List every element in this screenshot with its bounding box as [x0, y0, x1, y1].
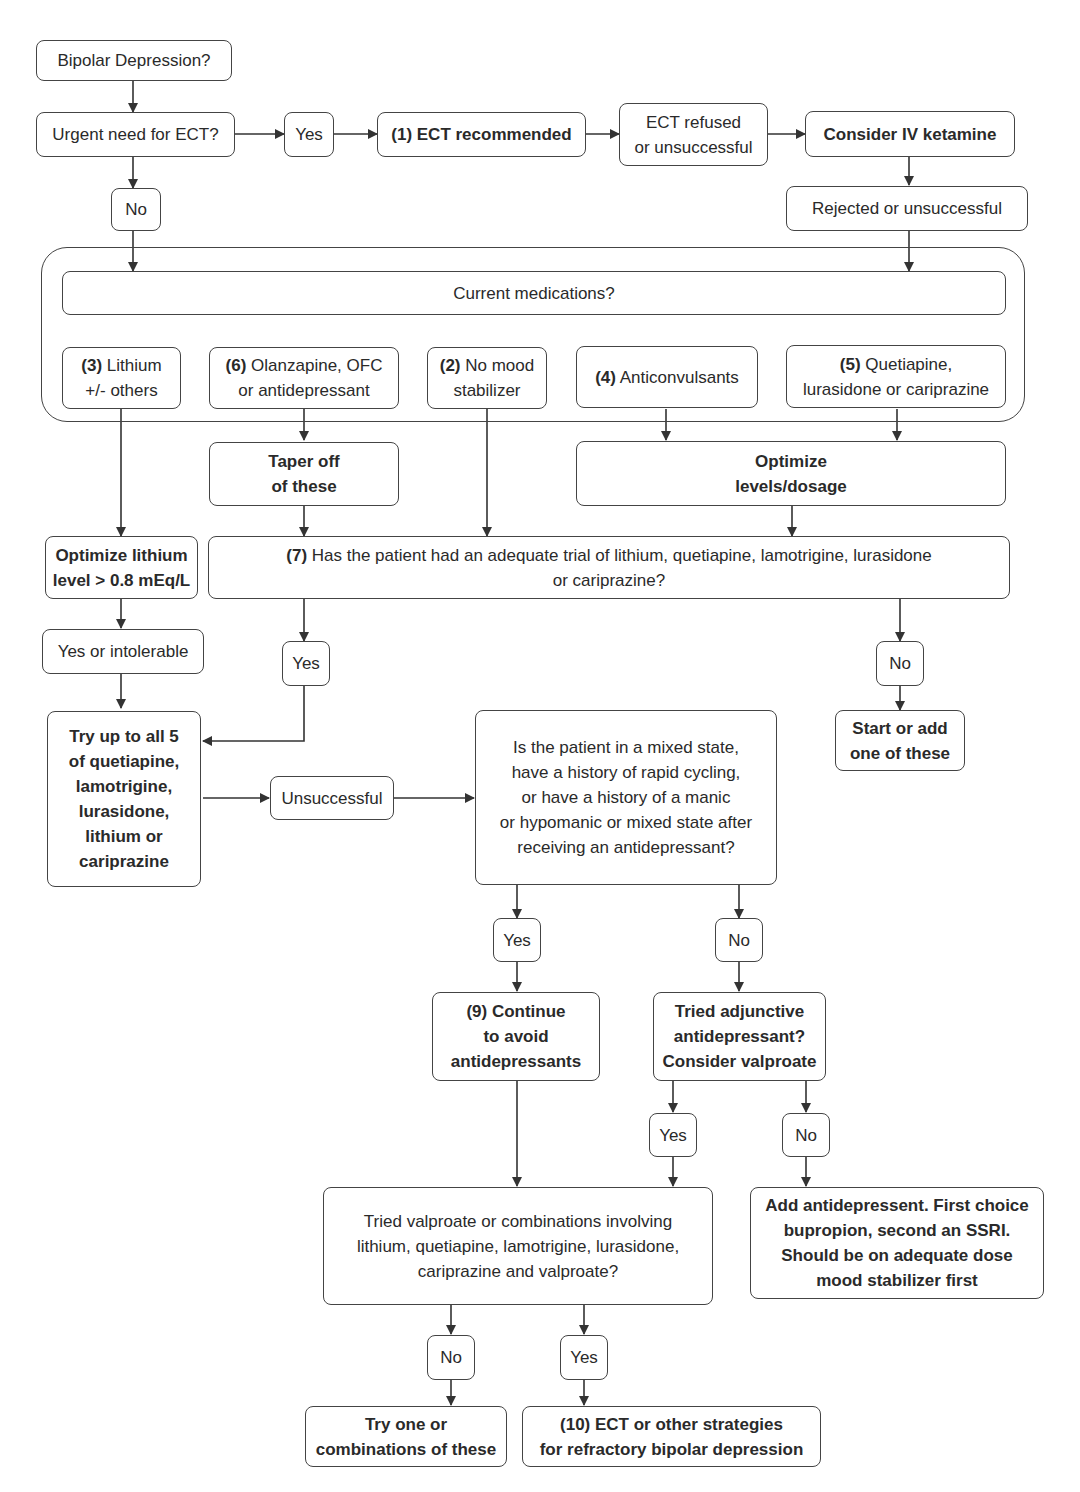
node-anticonvulsants: (4) Anticonvulsants [576, 346, 758, 408]
node-mixed-state-question: Is the patient in a mixed state, have a … [475, 710, 777, 885]
node-no-adjunctive: No [782, 1113, 830, 1157]
label-text: Quetiapine, lurasidone or cariprazine [803, 355, 989, 399]
node-consider-iv-ketamine: Consider IV ketamine [805, 111, 1015, 157]
label-number-6: (6) [226, 356, 247, 375]
node-yes-adjunctive: Yes [649, 1113, 697, 1157]
node-current-medications: Current medications? [62, 271, 1006, 315]
node-bipolar-depression: Bipolar Depression? [36, 40, 232, 81]
node-try-combinations: Try one or combinations of these [305, 1406, 507, 1467]
label-text: Olanzapine, OFC or antidepressant [238, 356, 382, 400]
node-no-mixed: No [715, 918, 763, 962]
node-no-adequate: No [876, 641, 924, 686]
node-yes-valproate: Yes [560, 1335, 608, 1380]
label-number-5: (5) [840, 355, 861, 374]
node-taper-off: Taper off of these [209, 442, 399, 506]
label-number-2: (2) [440, 356, 461, 375]
label-number-7: (7) [286, 546, 307, 565]
node-add-antidepressant: Add antidepressent. First choice bupropi… [750, 1187, 1044, 1299]
flowchart-canvas: Bipolar Depression? Urgent need for ECT?… [0, 0, 1080, 1492]
node-optimize-lithium: Optimize lithium level > 0.8 mEq/L [45, 536, 198, 599]
label-number-3: (3) [81, 356, 102, 375]
node-ect-refractory: (10) ECT or other strategies for refract… [522, 1406, 821, 1467]
label-text: Anticonvulsants [616, 368, 739, 387]
node-olanzapine-ofc: (6) Olanzapine, OFC or antidepressant [209, 347, 399, 409]
arrow-yes-to-tryall [203, 686, 304, 741]
node-unsuccessful: Unsuccessful [270, 776, 394, 820]
node-no-valproate: No [427, 1335, 475, 1380]
node-optimize-levels: Optimize levels/dosage [576, 441, 1006, 506]
node-rejected-unsuccessful: Rejected or unsuccessful [786, 186, 1028, 231]
node-ect-refused: ECT refused or unsuccessful [619, 103, 768, 166]
node-tried-adjunctive: Tried adjunctive antidepressant? Conside… [653, 992, 826, 1081]
label-number-4: (4) [595, 368, 616, 387]
node-quetiapine-lurasidone: (5) Quetiapine, lurasidone or cariprazin… [786, 345, 1006, 408]
node-ect-recommended: (1) ECT recommended [377, 112, 586, 157]
node-yes-urgent: Yes [284, 112, 334, 157]
node-urgent-need-ect: Urgent need for ECT? [36, 112, 235, 157]
node-continue-avoid-antidepressants: (9) Continue to avoid antidepressants [432, 992, 600, 1081]
node-try-up-to-all-5: Try up to all 5 of quetiapine, lamotrigi… [47, 711, 201, 887]
node-start-or-add: Start or add one of these [835, 710, 965, 771]
label-text: No mood stabilizer [453, 356, 534, 400]
node-no-mood-stabilizer: (2) No mood stabilizer [427, 347, 547, 409]
node-no-urgent: No [111, 188, 161, 231]
node-tried-valproate: Tried valproate or combinations involvin… [323, 1187, 713, 1305]
node-yes-or-intolerable: Yes or intolerable [42, 629, 204, 674]
label-text: Has the patient had an adequate trial of… [307, 546, 932, 590]
node-yes-adequate: Yes [282, 641, 330, 686]
node-yes-mixed: Yes [493, 918, 541, 962]
node-adequate-trial: (7) Has the patient had an adequate tria… [208, 536, 1010, 599]
node-lithium-others: (3) Lithium +/- others [62, 347, 181, 409]
